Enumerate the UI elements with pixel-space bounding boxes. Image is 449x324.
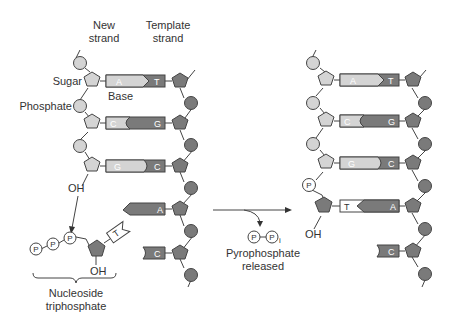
sugar-icon	[405, 72, 421, 86]
phosphate-icon	[185, 182, 198, 195]
svg-text:G: G	[388, 117, 395, 127]
phosphate-icon	[185, 97, 198, 110]
base-pair-c-g: C G	[106, 117, 165, 129]
phosphate-icon	[419, 268, 432, 281]
arrowhead-icon	[257, 221, 263, 227]
template-base-c: C	[377, 245, 399, 257]
svg-text:P: P	[67, 234, 72, 243]
triphosphate-label: triphosphate	[46, 300, 107, 312]
phosphate-icon	[419, 180, 432, 193]
sugar-icon	[318, 71, 334, 85]
svg-text:C: C	[388, 159, 395, 169]
phosphate-icon	[185, 269, 198, 282]
arrowhead-icon	[285, 207, 292, 213]
sugar-icon	[172, 201, 188, 215]
nucleoside-label: Nucleoside	[49, 287, 103, 299]
sugar-icon	[84, 114, 100, 128]
svg-text:P: P	[50, 240, 55, 249]
oh-label-ntp: OH	[90, 265, 107, 277]
right-template-backbone	[399, 70, 432, 287]
svg-text:C: C	[154, 249, 161, 259]
phosphate-icon	[74, 57, 87, 70]
reaction-arrow: P P i Pyrophosphate released	[213, 207, 300, 272]
phosphate-icon	[419, 138, 432, 151]
phosphate-icon	[307, 138, 320, 151]
sugar-icon	[172, 158, 188, 172]
base-pair-g-c: G C	[340, 157, 399, 169]
phosphate-icon	[307, 57, 320, 70]
template-base-c: C	[143, 247, 165, 259]
sugar-icon	[84, 157, 100, 171]
released-label: released	[242, 260, 284, 272]
phosphate-icon	[74, 140, 87, 153]
right-panel: P OH A T C G G C	[303, 50, 432, 287]
pyrophosphate-label: Pyrophosphate	[226, 247, 300, 259]
base-pair-c-g: C G	[340, 115, 399, 127]
sugar-label: Sugar	[53, 75, 83, 87]
svg-text:A: A	[157, 205, 163, 215]
phosphate-icon	[307, 97, 320, 110]
svg-text:P: P	[269, 233, 274, 242]
base-label: Base	[108, 90, 133, 102]
phosphate-icon	[185, 225, 198, 238]
phosphate-icon	[185, 139, 198, 152]
dna-replication-diagram: New strand Template strand Sugar Phos	[0, 0, 449, 324]
svg-text:T: T	[388, 76, 394, 86]
nucleoside-triphosphate: P P P OH T	[30, 222, 130, 277]
template-strand-label-2: strand	[153, 32, 184, 44]
svg-text:C: C	[154, 162, 161, 172]
sugar-icon	[318, 112, 334, 126]
pi-subscript: i	[279, 236, 281, 245]
svg-text:C: C	[388, 247, 395, 257]
base-pair-a-t: A T	[106, 75, 165, 87]
oh-label-right: OH	[305, 228, 322, 240]
svg-text:A: A	[350, 76, 356, 86]
svg-text:G: G	[114, 162, 121, 172]
sugar-icon	[318, 154, 334, 168]
svg-text:P: P	[33, 245, 38, 254]
new-strand-label-2: strand	[89, 32, 120, 44]
sugar-icon	[405, 243, 421, 257]
sugar-icon	[84, 72, 100, 86]
left-panel: Sugar Phosphate Base OH A T C G G C A	[19, 50, 197, 312]
left-new-backbone	[74, 50, 107, 186]
phosphate-icon	[419, 223, 432, 236]
sugar-icon	[172, 73, 188, 87]
left-template-backbone	[165, 70, 198, 287]
phosphate-icon	[419, 97, 432, 110]
phosphate-icon	[74, 100, 87, 113]
svg-text:A: A	[390, 202, 396, 212]
sugar-icon	[88, 240, 105, 256]
sugar-icon	[172, 245, 188, 259]
attack-arrow	[72, 196, 78, 228]
template-strand-label: Template	[146, 19, 191, 31]
sugar-icon	[315, 197, 332, 212]
svg-text:P: P	[306, 181, 311, 190]
right-new-backbone: P OH	[303, 50, 341, 240]
template-base-a: A	[123, 203, 165, 215]
new-strand-label: New	[93, 19, 115, 31]
svg-text:T: T	[344, 202, 350, 212]
svg-text:C: C	[344, 117, 351, 127]
header-labels: New strand Template strand	[89, 19, 191, 44]
svg-text:C: C	[110, 119, 117, 129]
base-pair-t-a: T A	[340, 200, 399, 212]
svg-text:G: G	[348, 159, 355, 169]
phosphate-label: Phosphate	[19, 100, 72, 112]
oh-label: OH	[68, 182, 85, 194]
svg-text:A: A	[116, 77, 122, 87]
svg-text:G: G	[154, 119, 161, 129]
svg-text:P: P	[251, 233, 256, 242]
svg-text:T: T	[154, 77, 160, 87]
base-pair-a-t: A T	[340, 74, 399, 86]
base-pair-g-c: G C	[106, 160, 165, 172]
